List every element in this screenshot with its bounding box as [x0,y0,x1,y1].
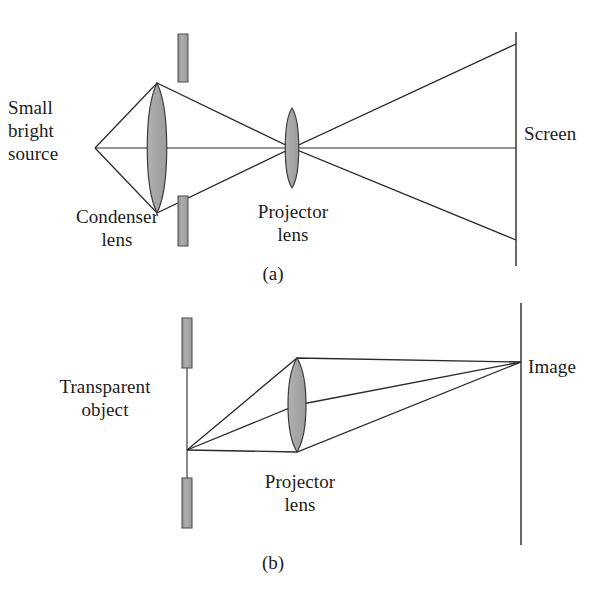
source-label: Small bright source [8,96,58,165]
figure-root: Small bright source Condenser lens Proje… [0,0,605,596]
panel-tag-b: (b) [248,552,298,574]
projector-lens-a [285,108,299,188]
aperture-bar-bottom [178,196,188,246]
object-bar-bottom [182,478,192,528]
panel-tag-a: (a) [248,263,298,285]
screen-label: Screen [524,122,576,145]
projector-lens-b [288,358,306,452]
condenser-lens [147,83,167,213]
transparent-object-label: Transparent object [40,375,170,421]
lower-ray-b [187,362,521,452]
object-bar-top [182,318,192,368]
projector-lens-label-a: Projector lens [243,200,343,246]
projector-lens-label-b: Projector lens [250,470,350,516]
condenser-lens-label: Condenser lens [58,205,176,251]
aperture-bar-top [178,34,188,82]
panel-b-group [182,303,521,545]
middle-ray-b [187,362,521,450]
image-label: Image [528,355,576,378]
